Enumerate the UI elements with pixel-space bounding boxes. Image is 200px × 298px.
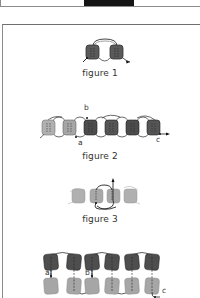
- cropped-photo: [84, 0, 134, 6]
- figure-1-diagram: [80, 38, 130, 66]
- bead-instructions-page: figure 1 a: [0, 0, 200, 298]
- figure-2-label-c: c: [156, 135, 160, 144]
- top-photo-strip: [0, 0, 200, 7]
- figure-3-diagram: [68, 178, 140, 214]
- figure-4-label-c: c: [162, 286, 166, 295]
- figure-3-caption: figure 3: [0, 214, 200, 224]
- figure-2-label-b: b: [84, 103, 89, 112]
- figure-2-diagram: [40, 112, 170, 152]
- figure-2-label-a: a: [78, 138, 83, 147]
- figure-4-label-b: b: [85, 268, 90, 277]
- figure-1-caption: figure 1: [0, 68, 200, 78]
- figure-2-caption: figure 2: [0, 151, 200, 161]
- figure-4-label-a: a: [45, 268, 50, 277]
- figure-4-diagram: [42, 250, 160, 298]
